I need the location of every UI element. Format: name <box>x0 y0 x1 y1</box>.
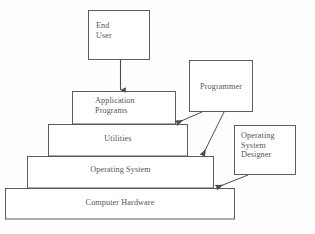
actor-box-operating-system-designer <box>235 126 296 175</box>
arrow-programmer-to-utilities <box>203 112 225 156</box>
diagram-canvas <box>0 0 315 234</box>
layered-architecture-diagram: End User Programmer Operating System Des… <box>0 0 315 234</box>
layer-box-computer-hardware <box>6 189 235 220</box>
arrow-programmer-to-application-programs <box>177 112 203 123</box>
arrow-os-designer-to-operating-system <box>217 175 249 188</box>
layer-box-operating-system <box>28 157 214 189</box>
layer-box-application-programs <box>73 92 176 125</box>
actor-box-programmer <box>190 61 253 112</box>
layer-box-utilities <box>49 125 188 157</box>
actor-box-end-user <box>89 11 150 60</box>
